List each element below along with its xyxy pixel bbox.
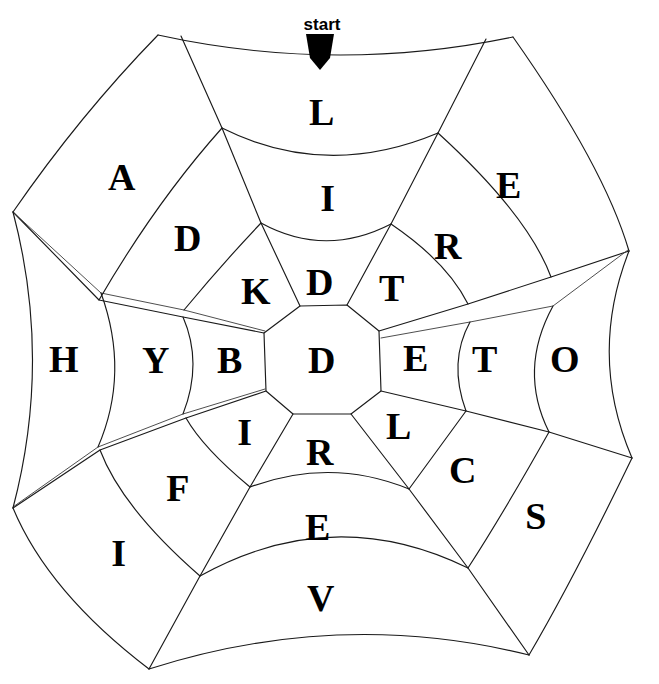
ring-middle-left bbox=[98, 293, 115, 447]
ring-inner-top bbox=[261, 223, 391, 241]
ring-middle-tl bbox=[99, 128, 222, 300]
cell-middle-bottom-right: C bbox=[449, 449, 477, 491]
spoke-right bbox=[381, 391, 632, 458]
cell-middle-top-left: D bbox=[174, 217, 202, 259]
cell-outer-top-right: E bbox=[496, 164, 522, 206]
cell-inner-bottom-right: L bbox=[386, 405, 412, 447]
ring-outer-tl bbox=[13, 35, 158, 212]
spoke-top bbox=[181, 36, 300, 306]
cell-outer-left: H bbox=[49, 338, 79, 380]
start-marker: start bbox=[304, 15, 341, 71]
ring-outer-left bbox=[13, 212, 33, 508]
ring-middle-bottom bbox=[200, 537, 468, 576]
cell-middle-bottom-left: F bbox=[166, 467, 190, 509]
cell-center: D bbox=[308, 339, 336, 381]
ring-outer-br bbox=[529, 458, 632, 655]
spoke-left bbox=[13, 212, 264, 333]
ring-inner-right bbox=[458, 322, 470, 411]
cell-outer-bottom-right: S bbox=[525, 495, 547, 537]
ring-outer-top bbox=[158, 35, 513, 55]
cell-outer-right: O bbox=[550, 338, 580, 380]
cell-middle-bottom: E bbox=[305, 506, 331, 548]
ring-outer-right bbox=[609, 251, 632, 458]
spoke-top-right bbox=[347, 39, 486, 305]
cell-inner-bottom: R bbox=[306, 431, 334, 473]
spoke-bottom-left bbox=[13, 391, 266, 508]
cell-inner-top-right: T bbox=[379, 267, 405, 309]
spoke-top-right-diag bbox=[379, 251, 629, 331]
web-letters: D D T E L R I B K I R T C E F Y D L E O … bbox=[49, 91, 580, 619]
ring-inner-left bbox=[183, 317, 193, 414]
cell-outer-bottom-left: I bbox=[111, 532, 126, 574]
spoke-bottom-right bbox=[351, 414, 529, 655]
ring-inner-bottom bbox=[250, 472, 409, 489]
web-diagram: start D D T E L R I B K I R T C E F Y D bbox=[0, 0, 659, 684]
cell-middle-top-right: R bbox=[434, 225, 462, 267]
ring-outer-bl bbox=[13, 508, 149, 669]
cell-inner-top: D bbox=[306, 261, 334, 303]
ring-outer-bottom bbox=[149, 635, 529, 669]
cell-middle-left: Y bbox=[142, 339, 170, 381]
ring-outer-tr bbox=[513, 37, 629, 251]
cell-outer-bottom: V bbox=[307, 577, 335, 619]
spoke-left-lower bbox=[13, 389, 265, 507]
start-label: start bbox=[304, 15, 341, 34]
cell-outer-top: L bbox=[309, 91, 335, 133]
cell-inner-right: E bbox=[403, 337, 429, 379]
cell-middle-top: I bbox=[320, 177, 335, 219]
spoke-bottom bbox=[149, 414, 293, 669]
spoke-left-upper bbox=[13, 212, 265, 331]
cell-inner-bottom-left: I bbox=[237, 411, 252, 453]
spiderweb-puzzle: start D D T E L R I B K I R T C E F Y D bbox=[0, 0, 659, 684]
cell-inner-left: B bbox=[217, 339, 243, 381]
cell-outer-top-left: A bbox=[108, 156, 136, 198]
cell-middle-right: T bbox=[472, 338, 498, 380]
cell-inner-top-left: K bbox=[241, 270, 271, 312]
start-arrow-icon bbox=[306, 34, 334, 70]
